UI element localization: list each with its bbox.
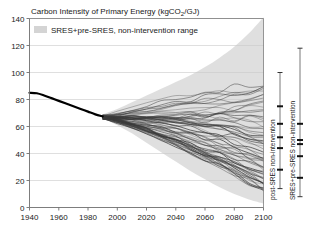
y-tick-label-40: 40 — [16, 150, 25, 159]
y-tick-label-0: 0 — [20, 204, 25, 213]
x-tick-label-1980: 1980 — [79, 213, 97, 222]
x-tick-label-1940: 1940 — [21, 213, 39, 222]
chart-figure: 0204060801001201401940196019802000202020… — [0, 0, 311, 235]
y-tick-label-80: 80 — [16, 96, 25, 105]
x-tick-label-2100: 2100 — [255, 213, 273, 222]
legend-swatch — [34, 26, 47, 33]
x-tick-label-1960: 1960 — [50, 213, 68, 222]
range-bar-label-0: post-SRES non-intervention — [269, 119, 277, 200]
x-tick-label-2020: 2020 — [138, 213, 156, 222]
carbon-intensity-chart: 0204060801001201401940196019802000202020… — [0, 0, 311, 235]
x-tick-label-2000: 2000 — [108, 213, 126, 222]
x-tick-label-2060: 2060 — [196, 213, 214, 222]
y-tick-label-140: 140 — [11, 15, 25, 24]
range-bar-0 — [277, 73, 283, 189]
range-bar-label-1: SRES+pre-SRES non-intervention — [289, 100, 297, 200]
y-tick-label-60: 60 — [16, 123, 25, 132]
legend-label: SRES+pre-SRES, non-intervention range — [51, 26, 199, 35]
y-tick-label-20: 20 — [16, 177, 25, 186]
y-tick-label-120: 120 — [11, 42, 25, 51]
range-bar-1 — [297, 48, 303, 197]
y-tick-label-100: 100 — [11, 69, 25, 78]
chart-title: Carbon Intensity of Primary Energy (kgCO… — [31, 7, 200, 17]
x-tick-label-2080: 2080 — [225, 213, 243, 222]
x-tick-label-2040: 2040 — [167, 213, 185, 222]
